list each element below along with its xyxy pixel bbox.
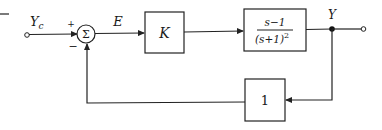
output-label: Y [328,8,337,22]
input-signal-line [29,34,77,35]
sigma-symbol: Σ [82,28,90,41]
error-signal-line [95,33,144,34]
controller-label: K [158,25,171,41]
control-signal-line [184,31,243,32]
output-signal-line [306,29,332,30]
error-label: E [112,14,123,29]
output-terminal-icon [361,27,366,32]
minus-sign: − [68,40,77,53]
plant-denominator: (s+1)2 [255,31,289,45]
plant-numerator: s−1 [265,16,286,28]
block-diagram: Yc Σ + − E K s−1 (s+1)2 Y 1 [0,0,382,130]
plus-sign: + [67,19,75,29]
input-terminal-icon [25,33,30,38]
input-label: Yc [30,14,44,31]
feedback-label: 1 [261,93,269,108]
